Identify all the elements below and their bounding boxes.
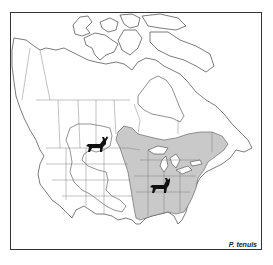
north-america-map bbox=[0, 0, 273, 265]
species-label: P. tenuis bbox=[229, 241, 257, 248]
